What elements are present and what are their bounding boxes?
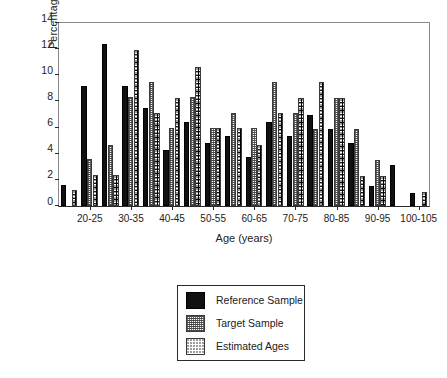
- solid-black-swatch-icon: [186, 292, 205, 309]
- bar-ref: [102, 44, 107, 206]
- y-tick-label: 14: [25, 13, 59, 24]
- y-tick-mark: [55, 179, 59, 180]
- bar-target: [375, 160, 380, 206]
- bar-ref: [205, 143, 210, 206]
- bar-est: [298, 98, 303, 206]
- legend-item-target-sample: Target Sample: [186, 314, 284, 332]
- bar-ref: [369, 186, 374, 206]
- bar-ref: [81, 86, 86, 206]
- bar-ref: [390, 165, 395, 206]
- bar-target: [128, 97, 133, 206]
- bar-target: [334, 98, 339, 206]
- bar-ref: [122, 86, 127, 206]
- x-tick-mark: [213, 206, 214, 210]
- bar-ref: [307, 115, 312, 206]
- legend-item-estimated-ages: Estimated Ages: [186, 337, 289, 355]
- y-tick-label: 6: [25, 117, 59, 128]
- bar-ref: [348, 143, 353, 206]
- sparse-dots-swatch-icon: [186, 338, 205, 355]
- x-tick-label: 90-95: [365, 213, 391, 224]
- x-tick-label: 70-75: [283, 213, 309, 224]
- bar-est: [113, 175, 118, 206]
- bar-est: [360, 176, 365, 206]
- x-tick-label: 100-105: [400, 213, 437, 224]
- bar-ref: [225, 136, 230, 206]
- bar-target: [169, 128, 174, 206]
- y-tick-label: 10: [25, 65, 59, 76]
- x-tick-mark: [419, 206, 420, 210]
- x-tick-label: 20-25: [77, 213, 103, 224]
- dense-grid-swatch-icon: [186, 315, 205, 332]
- bar-est: [380, 176, 385, 206]
- y-tick-label: 8: [25, 91, 59, 102]
- x-tick-label: 50-55: [200, 213, 226, 224]
- x-tick-mark: [295, 206, 296, 210]
- bar-est: [134, 50, 139, 206]
- chart-legend: Reference Sample Target Sample Estimated…: [177, 285, 305, 361]
- plot-inner: 0246810121420-2530-3540-4550-5560-6570-7…: [59, 23, 429, 206]
- bar-target: [108, 145, 113, 206]
- bar-est: [278, 113, 283, 206]
- y-tick-mark: [55, 100, 59, 101]
- bar-target: [313, 129, 318, 206]
- x-tick-mark: [378, 206, 379, 210]
- bar-est: [93, 175, 98, 206]
- bar-target: [354, 129, 359, 206]
- x-tick-label: 40-45: [159, 213, 185, 224]
- bar-ref: [184, 122, 189, 206]
- bar-ref: [328, 129, 333, 206]
- bar-est: [216, 128, 221, 206]
- bar-est: [237, 128, 242, 206]
- x-tick-mark: [254, 206, 255, 210]
- bar-target: [293, 113, 298, 206]
- bar-target: [149, 82, 154, 206]
- x-tick-label: 30-35: [118, 213, 144, 224]
- bar-target: [231, 113, 236, 206]
- bar-chart-figure: Percentage 0246810121420-2530-3540-4550-…: [0, 0, 447, 378]
- bar-est: [154, 113, 159, 206]
- bar-ref: [287, 136, 292, 206]
- plot-area: Percentage 0246810121420-2530-3540-4550-…: [58, 22, 430, 207]
- x-tick-label: 80-85: [324, 213, 350, 224]
- x-axis-title: Age (years): [59, 232, 429, 244]
- bar-target: [251, 128, 256, 206]
- y-tick-label: 2: [25, 169, 59, 180]
- bar-est: [257, 145, 262, 206]
- bar-ref: [143, 108, 148, 206]
- bar-est: [175, 98, 180, 206]
- y-tick-label: 0: [25, 196, 59, 207]
- y-tick-label: 4: [25, 143, 59, 154]
- bar-target: [87, 159, 92, 206]
- bar-ref: [163, 150, 168, 206]
- legend-item-reference-sample: Reference Sample: [186, 291, 303, 309]
- legend-label: Estimated Ages: [216, 340, 289, 352]
- x-tick-label: 60-65: [241, 213, 267, 224]
- bar-ref: [410, 193, 415, 206]
- x-tick-mark: [337, 206, 338, 210]
- legend-label: Reference Sample: [216, 294, 303, 306]
- bar-est: [195, 67, 200, 206]
- bar-ref: [61, 185, 66, 206]
- bar-target: [272, 82, 277, 206]
- bar-ref: [266, 122, 271, 206]
- y-tick-mark: [55, 48, 59, 49]
- bar-target: [190, 97, 195, 206]
- x-tick-mark: [131, 206, 132, 210]
- x-tick-mark: [172, 206, 173, 210]
- y-tick-mark: [55, 127, 59, 128]
- y-tick-mark: [55, 74, 59, 75]
- y-tick-mark: [55, 153, 59, 154]
- legend-label: Target Sample: [216, 317, 284, 329]
- y-tick-mark: [55, 205, 59, 206]
- x-tick-mark: [90, 206, 91, 210]
- bar-est: [422, 192, 427, 206]
- bar-est: [339, 98, 344, 206]
- y-tick-mark: [55, 22, 59, 23]
- bar-target: [210, 128, 215, 206]
- bar-est: [319, 82, 324, 206]
- bar-est: [72, 190, 77, 206]
- bar-ref: [246, 157, 251, 206]
- y-tick-label: 12: [25, 39, 59, 50]
